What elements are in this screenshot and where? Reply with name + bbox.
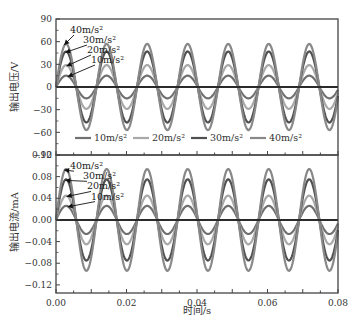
y-axis-title-current: 输出电流/mA xyxy=(8,191,20,252)
legend-label-2: 20m/s² xyxy=(152,132,185,143)
y-tick-label: 0.00 xyxy=(32,215,52,225)
y-tick-label: 0.04 xyxy=(32,193,52,203)
annotation-label: 10m/s² xyxy=(91,191,124,202)
y-tick-label: 0.08 xyxy=(32,172,52,182)
legend-label-4: 40m/s² xyxy=(269,132,302,143)
y-tick-label: −0.12 xyxy=(24,280,52,290)
legend-label-3: 30m/s² xyxy=(210,132,243,143)
annotation-label: 10m/s² xyxy=(91,54,124,65)
y-tick-label: −0.04 xyxy=(24,237,52,247)
x-tick-label: 0.02 xyxy=(116,298,136,308)
y-tick-label: 90 xyxy=(41,14,53,24)
y-tick-label: 0 xyxy=(46,82,52,92)
y-tick-label: −30 xyxy=(33,105,52,115)
x-tick-label: 0.06 xyxy=(257,298,277,308)
y-tick-label: 0.12 xyxy=(32,150,52,160)
legend: 10m/s²20m/s²30m/s²40m/s² xyxy=(75,132,302,143)
x-axis-title: 时间/s xyxy=(183,304,212,316)
chart-figure: −90−60−30030609040m/s²30m/s²20m/s²10m/s²… xyxy=(0,0,356,324)
y-tick-label: 30 xyxy=(41,60,53,70)
y-tick-label: −0.08 xyxy=(24,258,52,268)
current-panel: −0.12−0.08−0.040.000.040.080.120.000.020… xyxy=(24,150,348,308)
legend-label-1: 10m/s² xyxy=(94,132,127,143)
y-axis-title-voltage: 输出电压/V xyxy=(8,61,20,112)
y-tick-label: 60 xyxy=(41,37,53,47)
x-tick-label: 0.08 xyxy=(328,298,348,308)
x-tick-label: 0.00 xyxy=(46,298,66,308)
y-tick-label: −60 xyxy=(33,128,52,138)
